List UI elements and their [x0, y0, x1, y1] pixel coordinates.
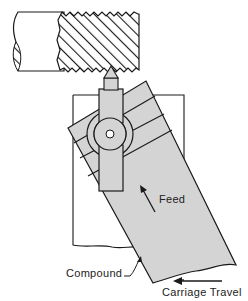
compound-leader — [124, 256, 142, 276]
workpiece-shaft — [13, 12, 64, 71]
feed-label: Feed — [159, 193, 185, 205]
compound-rest — [68, 81, 236, 283]
carriage-travel-label: Carriage Travel — [162, 286, 242, 298]
compound-label: Compound — [66, 267, 122, 279]
threaded-section — [55, 8, 143, 76]
carriage-travel-arrow — [173, 277, 222, 285]
tool-post — [94, 89, 126, 191]
lathe-threading-diagram — [0, 0, 248, 301]
